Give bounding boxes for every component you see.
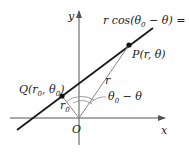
point-p-marker [126, 42, 131, 47]
angle-label: θ0 − θ [108, 90, 142, 105]
point-q-label: Q(r0, θ0) [19, 83, 64, 98]
polar-line [17, 28, 153, 130]
segment-op [79, 45, 129, 118]
origin-label: O [72, 123, 81, 136]
segment-r0-label: r0 [60, 99, 70, 114]
segment-r-label: r [105, 74, 111, 87]
y-axis-label: y [67, 10, 75, 23]
angle-arc-outer [66, 96, 94, 102]
point-p-label: P(r, θ) [131, 48, 166, 61]
x-axis-label: x [161, 124, 168, 137]
equation-label: r cos(θ0 − θ) = r0 [103, 14, 189, 29]
polar-line-diagram: y x O r cos(θ0 − θ) = r0 P(r, θ) Q(r0, θ… [0, 0, 189, 152]
